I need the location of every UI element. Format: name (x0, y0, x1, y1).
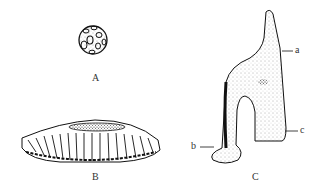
part-a-label: a (295, 45, 299, 55)
part-b-label: b (191, 141, 196, 151)
illustration-canvas (0, 0, 326, 194)
figure-c-arch (200, 10, 298, 163)
panel-a-label: A (92, 73, 99, 83)
panel-b-label: B (92, 172, 99, 182)
figure-b-disc (22, 120, 160, 162)
figure-a-sphere (79, 26, 107, 54)
panel-c-label: C (252, 172, 259, 182)
part-c-label: c (300, 125, 304, 135)
